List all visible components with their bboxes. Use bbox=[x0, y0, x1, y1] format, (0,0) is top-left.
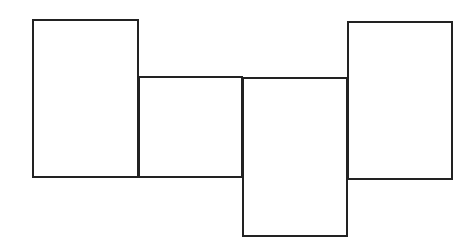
diagram-canvas bbox=[0, 0, 474, 246]
rectangle-1 bbox=[32, 19, 139, 178]
rectangle-3 bbox=[242, 77, 348, 237]
rectangle-4 bbox=[347, 21, 453, 180]
rectangle-2 bbox=[138, 76, 243, 178]
